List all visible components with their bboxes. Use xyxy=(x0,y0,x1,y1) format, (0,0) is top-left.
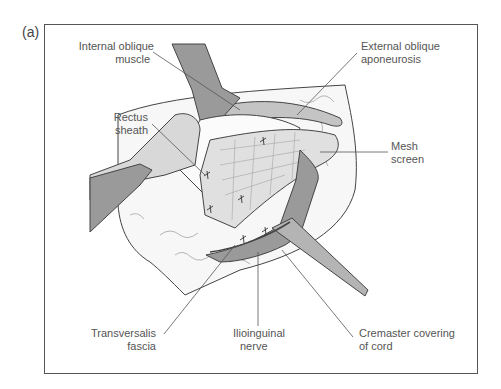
label-rectus-line1: Rectus xyxy=(100,111,148,124)
label-mesh-line1: Mesh xyxy=(391,140,418,153)
label-ilioinguinal-line2: nerve xyxy=(240,340,268,353)
label-rectus-line2: sheath xyxy=(100,124,148,137)
label-cremaster-line2: of cord xyxy=(359,340,393,353)
label-internal-oblique-line2: muscle xyxy=(60,53,150,66)
label-external-oblique-line2: aponeurosis xyxy=(361,53,421,66)
label-transversalis-line2: fascia xyxy=(80,340,156,353)
label-transversalis-line1: Transversalis xyxy=(80,327,156,340)
label-external-oblique-line1: External oblique xyxy=(361,40,440,53)
label-cremaster-line1: Cremaster covering xyxy=(359,327,455,340)
label-mesh-line2: screen xyxy=(391,153,424,166)
label-ilioinguinal-line1: Ilioinguinal xyxy=(233,327,285,340)
label-internal-oblique-line1: Internal oblique xyxy=(60,40,154,53)
